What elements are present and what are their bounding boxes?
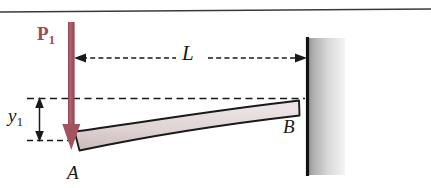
- diagram-canvas: [0, 0, 431, 188]
- span-label-L: L: [182, 43, 194, 64]
- point-label-A: A: [67, 163, 79, 182]
- figure-top-rule: [0, 9, 431, 12]
- cantilever-beam-figure: P1 L y1 A B: [0, 0, 431, 188]
- deflected-beam-body: [75, 101, 300, 151]
- deflection-label-y1: y1: [8, 106, 23, 125]
- force-label-P1: P1: [37, 24, 55, 43]
- dimension-arrowhead-right: [295, 53, 307, 62]
- dimension-arrow-y1: [35, 97, 44, 142]
- wall-support: [307, 37, 345, 176]
- dimension-arrowhead-left: [74, 53, 86, 62]
- point-label-B: B: [283, 117, 295, 136]
- applied-force-arrow: [62, 22, 80, 150]
